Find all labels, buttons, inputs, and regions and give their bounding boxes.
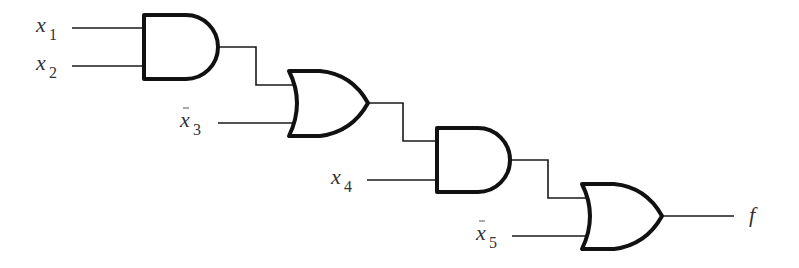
and-gate-2 (437, 128, 510, 192)
svg-text:x: x (330, 164, 341, 189)
label-x2: x 2 (35, 50, 57, 81)
logic-circuit-diagram: x 1 x 2 x 3 x 4 x 5 f (0, 0, 799, 268)
label-x5-bar: x 5 (475, 220, 497, 251)
svg-text:x: x (35, 12, 46, 37)
svg-text:1: 1 (49, 26, 57, 43)
and-gate-1 (144, 15, 218, 79)
svg-text:x: x (35, 50, 46, 75)
svg-text:5: 5 (489, 234, 497, 251)
wire-g1-g2 (218, 47, 294, 85)
wire-g3-g4 (510, 160, 587, 198)
svg-text:3: 3 (193, 121, 201, 138)
svg-text:4: 4 (344, 178, 352, 195)
svg-text:x: x (179, 107, 190, 132)
or-gate-1 (289, 71, 368, 136)
svg-text:f: f (749, 202, 758, 227)
wire-g2-g3 (368, 103, 437, 141)
label-output-f: f (749, 202, 758, 227)
label-x3-bar: x 3 (179, 107, 201, 138)
or-gate-2 (582, 184, 662, 249)
label-x1: x 1 (35, 12, 57, 43)
label-x4: x 4 (330, 164, 352, 195)
svg-text:x: x (475, 220, 486, 245)
svg-text:2: 2 (49, 64, 57, 81)
